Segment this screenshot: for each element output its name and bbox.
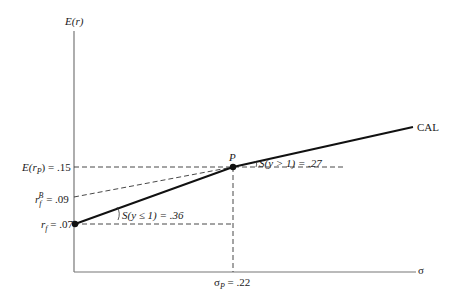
sigma-tick-label: σP = .22 — [214, 276, 250, 293]
slope-high-label: S(y > 1) = .27 — [259, 157, 322, 169]
erp-main: E(r — [22, 161, 37, 173]
slope-low-label: S(y ≤ 1) = .36 — [122, 209, 183, 221]
y-axis-label: E(r) — [65, 15, 83, 27]
rfb-value: = .09 — [43, 193, 68, 205]
portfolio-p-point — [230, 164, 236, 170]
rfb-tick-label: rfB = .09 — [35, 190, 69, 210]
rf-value: = .07 — [48, 218, 73, 230]
erp-value: ) = .15 — [42, 161, 71, 173]
sigma-value: = .22 — [225, 276, 250, 288]
erp-tick-label: E(rP) = .15 — [22, 161, 71, 178]
point-p-label: P — [229, 151, 236, 163]
rfb-extension-line — [74, 167, 233, 197]
cal-label: CAL — [417, 121, 439, 133]
rf-tick-label: rf = .07 — [41, 218, 73, 235]
rfb-sub: f — [39, 199, 41, 208]
x-axis-label: σ — [418, 264, 424, 276]
chart-canvas — [0, 0, 458, 300]
